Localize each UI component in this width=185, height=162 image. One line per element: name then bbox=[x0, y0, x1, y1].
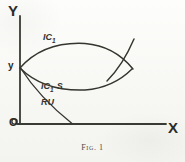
ru-curve bbox=[21, 68, 73, 124]
rising-offer-curve bbox=[107, 39, 134, 81]
figure-caption-number: 1 bbox=[99, 143, 104, 152]
ru-curve-label: RU bbox=[41, 98, 54, 107]
lower-indifference-curve-label-suffix: S bbox=[57, 81, 63, 91]
upper-indifference-curve bbox=[20, 43, 133, 69]
figure-caption-prefix: Fig. bbox=[81, 143, 96, 152]
y-axis-label: Y bbox=[8, 3, 18, 18]
figure-caption: Fig. 1 bbox=[0, 143, 185, 152]
figure-container: Y X O y IC1 IC1S RU Fig. 1 bbox=[0, 0, 185, 162]
y-intercept-label: y bbox=[8, 61, 14, 71]
x-axis-label: X bbox=[168, 120, 178, 135]
origin-label: O bbox=[9, 117, 18, 128]
figure-drawing bbox=[0, 0, 185, 162]
upper-indifference-curve-label-subscript: 1 bbox=[52, 37, 56, 44]
upper-indifference-curve-label: IC1 bbox=[43, 33, 56, 44]
lower-indifference-curve-label-subscript: 1 bbox=[50, 86, 54, 93]
lower-indifference-curve-label-text: IC bbox=[41, 81, 50, 91]
upper-indifference-curve-label-text: IC bbox=[43, 32, 52, 42]
lower-indifference-curve-label: IC1S bbox=[41, 82, 63, 93]
